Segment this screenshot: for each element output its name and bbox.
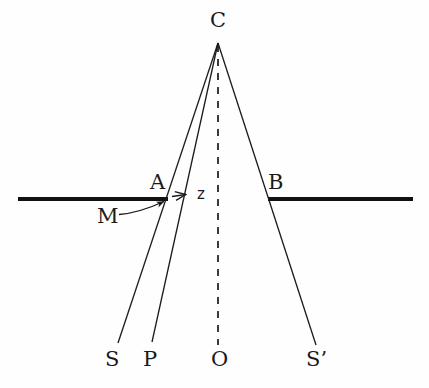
point-label-o: O [211,349,228,370]
point-label-b: B [268,172,283,193]
point-label-p: P [143,349,157,370]
point-label-m: M [97,206,119,227]
axis-label-z: z [197,187,205,202]
diagram-canvas [0,0,429,388]
point-label-s: S [105,349,119,370]
point-label-c: C [210,10,226,31]
m-leader-arrow [119,202,164,215]
figure-root: C A B M z S P O S’ [0,0,429,388]
point-label-a: A [150,172,165,193]
ray-line-c-to-s-prime [218,43,316,345]
point-label-s-prime: S’ [306,349,327,370]
